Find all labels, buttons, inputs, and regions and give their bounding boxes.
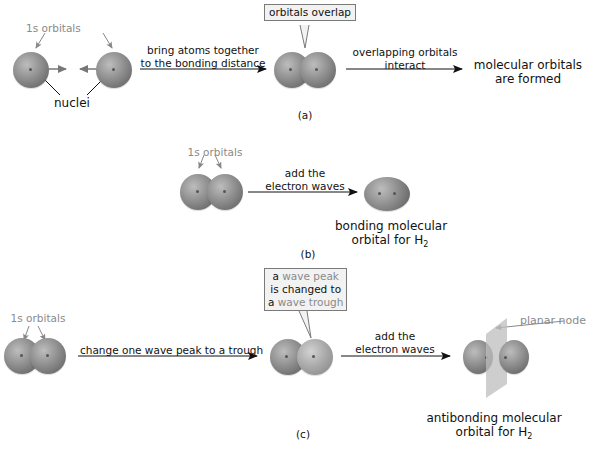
result-line2: orbital for H2 — [424, 425, 564, 444]
planar-node-plane — [0, 0, 589, 458]
result-line1: antibonding molecular — [424, 411, 564, 425]
panel-label-c: (c) — [288, 428, 318, 441]
subscript: 2 — [527, 432, 532, 441]
antibonding-lobe-right — [499, 340, 529, 374]
result-text: orbital for H — [456, 425, 528, 439]
nucleus — [504, 356, 507, 359]
result-label-c: antibonding molecular orbital for H2 — [424, 411, 564, 444]
planar-node-label: planar node — [518, 314, 588, 327]
